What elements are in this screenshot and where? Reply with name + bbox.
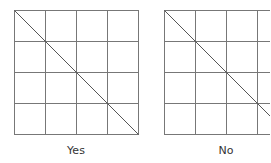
label-no: No bbox=[196, 144, 256, 157]
grid-yes bbox=[15, 11, 139, 135]
label-yes: Yes bbox=[46, 144, 106, 157]
grid-no bbox=[165, 11, 271, 135]
grid-diagrams bbox=[0, 0, 270, 163]
